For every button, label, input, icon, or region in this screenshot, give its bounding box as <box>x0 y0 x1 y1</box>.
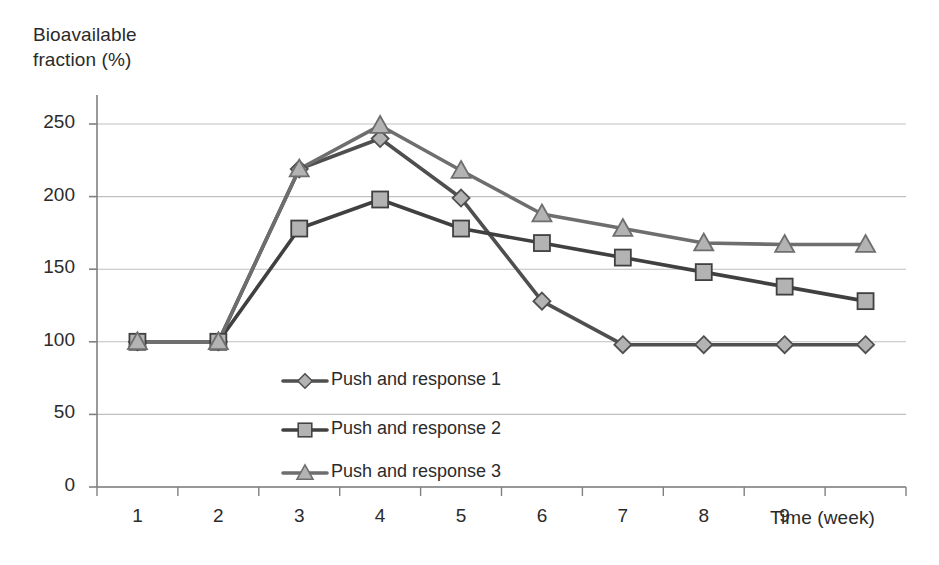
chart-container: Bioavailablefraction (%) Time (week) 050… <box>0 0 939 565</box>
series-line-3 <box>137 125 865 341</box>
data-point-triangle <box>452 161 471 178</box>
y-tick-label: 0 <box>19 474 75 496</box>
data-point-square <box>372 192 388 208</box>
series-line-2 <box>137 200 865 342</box>
y-tick-label: 150 <box>19 256 75 278</box>
data-point-square <box>298 423 312 437</box>
legend-marks-group <box>283 374 327 480</box>
x-tick-label: 4 <box>365 505 395 527</box>
legend-label-1: Push and response 1 <box>331 369 501 390</box>
data-point-diamond <box>776 336 793 353</box>
x-tick-label: 1 <box>122 505 152 527</box>
gridlines-group <box>97 124 906 487</box>
x-tick-label: 6 <box>527 505 557 527</box>
legend-label-3: Push and response 3 <box>331 461 501 482</box>
y-tick-label: 250 <box>19 111 75 133</box>
data-point-diamond <box>695 336 712 353</box>
data-point-square <box>696 264 712 280</box>
data-point-square <box>777 279 793 295</box>
data-point-diamond <box>298 374 312 388</box>
series-line-1 <box>137 139 865 345</box>
data-point-square <box>291 221 307 237</box>
y-tick-label: 100 <box>19 329 75 351</box>
data-point-square <box>858 293 874 309</box>
x-tick-label: 9 <box>770 505 800 527</box>
x-tick-label: 8 <box>689 505 719 527</box>
data-point-square <box>534 235 550 251</box>
y-tick-label: 200 <box>19 184 75 206</box>
data-point-square <box>453 221 469 237</box>
axis-ticks-group <box>89 124 906 496</box>
x-tick-label: 7 <box>608 505 638 527</box>
x-tick-label: 2 <box>203 505 233 527</box>
data-point-triangle <box>532 205 551 222</box>
data-point-diamond <box>614 336 631 353</box>
legend-label-2: Push and response 2 <box>331 418 501 439</box>
data-point-square <box>615 250 631 266</box>
series-lines-group <box>137 125 865 344</box>
x-tick-label: 3 <box>284 505 314 527</box>
y-tick-label: 50 <box>19 401 75 423</box>
data-point-diamond <box>857 336 874 353</box>
x-tick-label: 5 <box>446 505 476 527</box>
